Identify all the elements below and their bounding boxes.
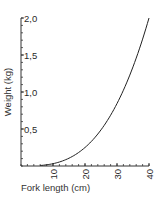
x-tick-label: 40: [144, 169, 155, 180]
y-axis: 0,51,01,52,0: [21, 13, 37, 167]
data-curve: [40, 18, 149, 166]
x-axis-title: Fork length (cm): [21, 182, 90, 193]
x-tick-label: 10: [48, 169, 59, 180]
y-tick-label: 0,5: [24, 124, 37, 135]
x-tick-label: 30: [112, 169, 123, 180]
y-tick-label: 1,0: [24, 87, 37, 98]
x-tick-label: 20: [80, 169, 91, 180]
y-tick-label: 2,0: [24, 13, 37, 24]
weight-length-chart: 0,51,01,52,0 10203040 Weight (kg) Fork l…: [0, 0, 162, 199]
y-tick-label: 1,5: [24, 50, 37, 61]
y-axis-title: Weight (kg): [2, 68, 13, 116]
